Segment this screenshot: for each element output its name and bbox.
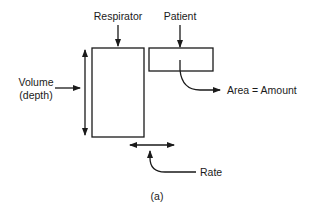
rate-label: Rate xyxy=(200,166,222,178)
patient-box xyxy=(149,48,213,71)
respirator-label: Respirator xyxy=(94,10,143,22)
respirator-box xyxy=(92,48,144,137)
volume-label: Volume xyxy=(18,76,53,88)
area-label: Area = Amount xyxy=(227,84,297,96)
rate-curved-arrow-icon xyxy=(150,151,196,172)
figure-caption: (a) xyxy=(151,190,164,202)
patient-label: Patient xyxy=(164,10,197,22)
area-curved-arrow-icon xyxy=(180,60,220,90)
respirator-patient-diagram: Respirator Patient Volume (depth) Area =… xyxy=(0,0,311,212)
volume-sublabel: (depth) xyxy=(19,89,52,101)
